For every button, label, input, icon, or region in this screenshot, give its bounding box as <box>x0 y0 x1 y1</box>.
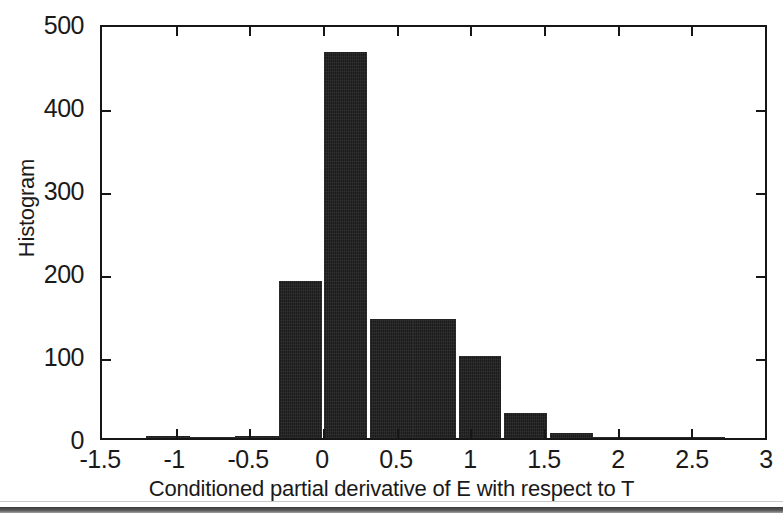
x-tick-mark <box>176 27 178 36</box>
histogram-bar <box>637 437 681 438</box>
x-tick-mark <box>249 429 251 438</box>
y-tick-mark <box>102 359 111 361</box>
scan-edge-line <box>0 501 783 502</box>
x-tick-mark <box>323 27 325 36</box>
x-axis-title: Conditioned partial derivative of E with… <box>0 476 783 502</box>
histogram-bar <box>413 319 456 438</box>
x-tick-mark <box>544 429 546 438</box>
scan-edge-artifact <box>0 507 783 513</box>
y-tick-mark <box>756 276 765 278</box>
y-tick-label-400: 400 <box>0 96 92 121</box>
x-tick-label-2p5: 2.5 <box>675 444 708 474</box>
histogram-bar <box>279 281 322 438</box>
histogram-bar <box>504 413 547 438</box>
x-tick-mark <box>691 27 693 36</box>
x-axis-tick-labels: -1.5 -1 -0.5 0 0.5 1 1.5 2 2.5 3 <box>0 444 783 478</box>
histogram-bar <box>190 437 234 438</box>
histogram-bar <box>235 436 279 438</box>
bars-layer <box>102 27 765 438</box>
x-tick-label-neg0p5: -0.5 <box>227 444 268 474</box>
x-tick-label-0p5: 0.5 <box>379 444 412 474</box>
x-tick-mark <box>397 429 399 438</box>
plot-area <box>100 25 767 440</box>
x-tick-mark <box>470 429 472 438</box>
y-tick-mark <box>102 276 111 278</box>
x-tick-label-neg1p5: -1.5 <box>79 444 120 474</box>
x-tick-mark <box>249 27 251 36</box>
y-tick-mark <box>756 193 765 195</box>
histogram-bar <box>459 356 502 438</box>
x-tick-label-1: 1 <box>463 444 476 474</box>
y-axis-title: Histogram <box>15 128 39 288</box>
y-tick-label-100: 100 <box>0 345 92 370</box>
x-tick-label-2: 2 <box>611 444 624 474</box>
x-tick-mark <box>618 27 620 36</box>
histogram-bar <box>324 52 367 438</box>
x-tick-label-neg1: -1 <box>163 444 184 474</box>
y-tick-mark <box>102 110 111 112</box>
y-tick-mark <box>756 359 765 361</box>
x-tick-mark <box>470 27 472 36</box>
histogram-bar <box>146 436 190 438</box>
y-axis-tick-labels: 500 400 300 200 100 0 <box>0 0 92 517</box>
x-tick-mark <box>176 429 178 438</box>
histogram-bar <box>370 319 413 438</box>
y-tick-label-500: 500 <box>0 13 92 38</box>
histogram-figure: 500 400 300 200 100 0 Histogram <box>0 0 783 517</box>
histogram-bar <box>593 437 637 438</box>
y-tick-label-200: 200 <box>0 262 92 287</box>
y-tick-mark <box>102 193 111 195</box>
x-tick-mark <box>323 429 325 438</box>
x-tick-label-1p5: 1.5 <box>527 444 560 474</box>
x-tick-label-0: 0 <box>315 444 328 474</box>
x-tick-label-3: 3 <box>759 444 772 474</box>
histogram-bar <box>681 437 725 438</box>
x-tick-mark <box>691 429 693 438</box>
x-tick-mark <box>618 429 620 438</box>
x-tick-mark <box>544 27 546 36</box>
x-tick-mark <box>397 27 399 36</box>
histogram-bar <box>550 433 593 438</box>
y-tick-mark <box>756 110 765 112</box>
